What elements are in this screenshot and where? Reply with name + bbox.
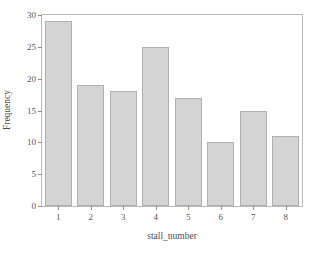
y-tick-label: 5 — [32, 170, 37, 179]
x-tick-mark — [156, 206, 157, 210]
y-tick-label: 0 — [32, 202, 37, 211]
x-tick-mark — [253, 206, 254, 210]
y-tick-label: 30 — [27, 11, 36, 20]
bar — [77, 85, 104, 206]
x-tick-label: 2 — [89, 213, 94, 222]
y-tick-mark — [38, 15, 42, 16]
x-tick-label: 4 — [154, 213, 159, 222]
y-tick-label: 10 — [27, 138, 36, 147]
x-tick-label: 6 — [219, 213, 224, 222]
x-tick-label: 1 — [56, 213, 61, 222]
x-tick-label: 8 — [284, 213, 289, 222]
x-tick-mark — [221, 206, 222, 210]
y-tick-mark — [38, 206, 42, 207]
x-tick-mark — [91, 206, 92, 210]
y-tick-mark — [38, 79, 42, 80]
y-axis-title: Frequency — [2, 90, 12, 130]
y-tick-mark — [38, 142, 42, 143]
x-tick-label: 3 — [121, 213, 126, 222]
bars-layer — [42, 15, 302, 206]
bar — [240, 111, 267, 207]
bar — [207, 142, 234, 206]
x-tick-mark — [123, 206, 124, 210]
bar-chart-figure: 051015202530 12345678 Frequency stall_nu… — [0, 0, 318, 255]
bar — [110, 91, 137, 206]
y-tick-mark — [38, 47, 42, 48]
x-axis-title: stall_number — [41, 231, 303, 241]
plot-area: 051015202530 12345678 — [41, 14, 303, 207]
x-tick-mark — [286, 206, 287, 210]
x-tick-mark — [188, 206, 189, 210]
bar — [175, 98, 202, 206]
y-tick-mark — [38, 111, 42, 112]
bar — [142, 47, 169, 206]
x-tick-mark — [58, 206, 59, 210]
y-tick-mark — [38, 174, 42, 175]
y-tick-label: 25 — [27, 42, 36, 51]
bar — [45, 21, 72, 206]
x-tick-label: 7 — [251, 213, 256, 222]
y-tick-label: 20 — [27, 74, 36, 83]
bar — [272, 136, 299, 206]
x-tick-label: 5 — [186, 213, 191, 222]
y-tick-label: 15 — [27, 106, 36, 115]
